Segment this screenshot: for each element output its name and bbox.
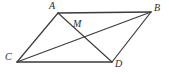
vertex-label-m: M xyxy=(73,19,81,29)
vertex-label-d: D xyxy=(115,59,122,69)
segment-ab xyxy=(58,12,151,13)
vertex-label-b: B xyxy=(154,3,160,13)
geometry-canvas xyxy=(0,0,169,74)
geometry-figure: A B C D M xyxy=(0,0,169,74)
diagonal-ad xyxy=(58,13,112,62)
vertex-label-c: C xyxy=(5,52,12,62)
vertex-label-a: A xyxy=(49,1,55,11)
